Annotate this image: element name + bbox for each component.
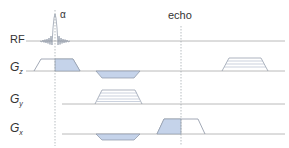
gz-spoiler-table bbox=[222, 58, 268, 71]
gx-prephase-lobe bbox=[96, 134, 140, 140]
gz-slice-select-fill bbox=[55, 59, 80, 71]
pulse-sequence-diagram bbox=[0, 0, 289, 148]
gy-phase-encode-table bbox=[95, 90, 142, 104]
gz-rephase-lobe bbox=[96, 71, 140, 78]
gx-readout-fill bbox=[157, 119, 181, 134]
